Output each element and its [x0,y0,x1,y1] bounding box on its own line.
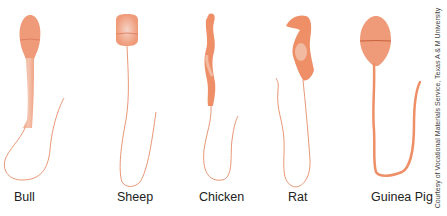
rat-sperm [276,15,314,186]
bull-sperm [4,15,64,180]
label-sheep: Sheep [117,190,153,204]
label-rat: Rat [288,190,307,204]
guinea-pig-sperm [360,16,420,176]
image-credit: Courtesy of Vocational Materials Service… [434,8,441,209]
sheep-sperm [116,14,156,187]
chicken-sperm [204,13,238,180]
label-guinea-pig: Guinea Pig [371,190,433,204]
label-bull: Bull [14,190,35,204]
label-chicken: Chicken [199,190,244,204]
sperm-diagram [0,0,447,216]
